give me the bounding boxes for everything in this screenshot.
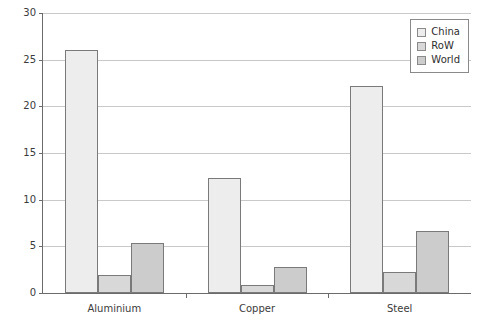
bar-steel-world[interactable]: [416, 231, 449, 293]
bar-copper-row[interactable]: [241, 285, 274, 293]
legend-label-row: RoW: [431, 41, 454, 51]
legend-item-china[interactable]: China: [417, 25, 460, 39]
bar-group-copper: [208, 13, 307, 293]
bar-groups: AluminiumCopperSteel: [43, 13, 471, 293]
bar-steel-row[interactable]: [383, 272, 416, 293]
bar-copper-world[interactable]: [274, 267, 307, 293]
xtick-label-copper: Copper: [239, 304, 275, 314]
legend-label-china: China: [431, 27, 460, 37]
bar-aluminium-row[interactable]: [98, 275, 131, 293]
plot-area: 051015202530 AluminiumCopperSteel: [42, 13, 471, 294]
ytick-label-15: 15: [23, 148, 36, 158]
ytick-label-5: 5: [30, 241, 36, 251]
xtick-label-steel: Steel: [387, 304, 412, 314]
xtick-label-aluminium: Aluminium: [87, 304, 141, 314]
bar-steel-china[interactable]: [350, 86, 383, 293]
bar-group-aluminium: [65, 13, 164, 293]
legend-item-row[interactable]: RoW: [417, 39, 460, 53]
xtick-mark-2: [328, 293, 329, 298]
bar-aluminium-china[interactable]: [65, 50, 98, 293]
ytick-label-10: 10: [23, 195, 36, 205]
gridline-y-0: [43, 293, 471, 294]
chart-legend: China RoW World: [410, 19, 469, 73]
legend-item-world[interactable]: World: [417, 53, 460, 67]
ytick-label-20: 20: [23, 101, 36, 111]
legend-label-world: World: [431, 55, 460, 65]
legend-swatch-row: [417, 42, 426, 51]
ytick-label-25: 25: [23, 55, 36, 65]
bar-chart: 051015202530 AluminiumCopperSteel China …: [0, 0, 480, 320]
ytick-label-30: 30: [23, 8, 36, 18]
bar-copper-china[interactable]: [208, 178, 241, 293]
ytick-mark-0: [39, 293, 43, 294]
xtick-mark-1: [186, 293, 187, 298]
bar-aluminium-world[interactable]: [131, 243, 164, 293]
ytick-label-0: 0: [30, 288, 36, 298]
legend-swatch-china: [417, 28, 426, 37]
legend-swatch-world: [417, 56, 426, 65]
